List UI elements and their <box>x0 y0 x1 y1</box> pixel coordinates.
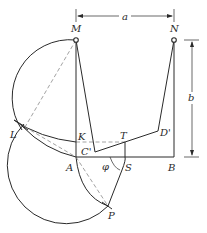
dimension-a-label: a <box>122 11 128 22</box>
label-K: K <box>77 131 86 142</box>
angle-phi-arc <box>110 157 120 170</box>
tick-P <box>102 202 112 209</box>
pivot-N <box>172 38 177 43</box>
label-M: M <box>70 23 82 34</box>
label-N: N <box>169 23 180 34</box>
label-S: S <box>125 162 132 173</box>
label-D-prime: D' <box>159 127 171 138</box>
dimension-b-label: b <box>188 92 194 103</box>
dashed-L-A <box>25 127 76 157</box>
label-C-prime: C' <box>81 146 91 157</box>
link-N-Dprime <box>158 40 174 131</box>
link-S-P <box>108 157 125 206</box>
label-A: A <box>65 162 73 173</box>
arc-upper-left <box>12 40 76 130</box>
label-T: T <box>120 130 128 141</box>
label-B: B <box>167 162 175 173</box>
label-P: P <box>107 210 115 221</box>
pivot-M <box>74 38 79 43</box>
linkage-diagram: a b M N L K T D' C' A φ S B <box>0 0 207 233</box>
label-L: L <box>9 129 17 140</box>
label-phi: φ <box>102 161 109 172</box>
